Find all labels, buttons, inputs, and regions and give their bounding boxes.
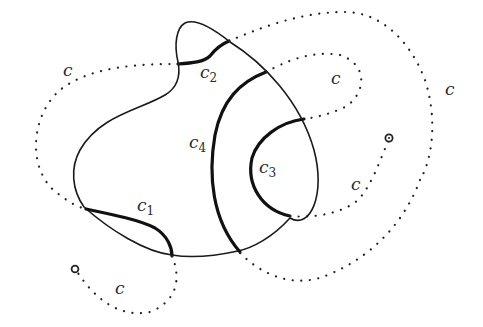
endpoint-circle-left (72, 266, 79, 273)
label-c-outer-right: c (445, 79, 455, 99)
arc-c2 (178, 41, 229, 64)
label-c-bottom-left: c (115, 278, 125, 298)
label-c-inner-right: c (331, 68, 341, 88)
label-c1: c1 (137, 195, 154, 218)
dotted-curve-c-outer-bottom (240, 180, 420, 281)
dotted-curve-c-to-left-endpoint (76, 256, 177, 313)
label-c2: c2 (200, 62, 217, 85)
diagram-canvas: c c c c c c1 c2 c3 c4 (0, 0, 483, 327)
label-c-mid-right: c (351, 174, 361, 194)
label-c4: c4 (189, 132, 207, 155)
dotted-curve-c-top-left (36, 64, 178, 209)
label-c-top-left: c (63, 60, 73, 80)
arc-c1 (86, 209, 172, 256)
label-c3: c3 (259, 157, 276, 180)
dotted-curve-c-to-right-endpoint (290, 139, 389, 217)
dotted-curve-c-outer-top (229, 12, 432, 180)
arc-c4 (212, 72, 266, 252)
endpoint-circle-right-center (388, 137, 390, 139)
